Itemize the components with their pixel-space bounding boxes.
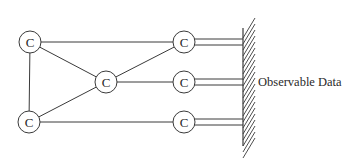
wall-hatch bbox=[243, 78, 255, 98]
node-c1: C bbox=[19, 31, 41, 53]
wall-hatch bbox=[243, 84, 255, 104]
observation-links bbox=[194, 39, 243, 125]
edge-c1-c3 bbox=[29, 42, 30, 122]
wall-hatch bbox=[243, 48, 255, 68]
network-diagram: CCCCCC Observable Data bbox=[0, 0, 352, 158]
wall-hatch bbox=[243, 138, 255, 158]
node-c3: C bbox=[18, 111, 40, 133]
node-label: C bbox=[180, 75, 189, 90]
wall-hatch bbox=[243, 36, 255, 56]
wall-hatch bbox=[243, 90, 255, 110]
wall-hatch bbox=[243, 54, 255, 74]
wall-hatch bbox=[243, 24, 255, 44]
wall-hatch bbox=[243, 66, 255, 86]
observable-wall bbox=[243, 18, 255, 158]
wall-hatch bbox=[243, 18, 255, 38]
wall-hatch bbox=[243, 42, 255, 62]
wall-hatch bbox=[243, 126, 255, 146]
edge-c3-c2 bbox=[29, 82, 106, 122]
node-label: C bbox=[102, 75, 111, 90]
edge-c1-c2 bbox=[30, 42, 106, 82]
wall-hatch bbox=[243, 108, 255, 128]
node-c5: C bbox=[173, 71, 195, 93]
node-c2: C bbox=[95, 71, 117, 93]
node-label: C bbox=[26, 35, 35, 50]
node-label: C bbox=[180, 115, 189, 130]
node-label: C bbox=[180, 35, 189, 50]
wall-hatch bbox=[243, 96, 255, 116]
wall-hatch bbox=[243, 72, 255, 92]
wall-hatch bbox=[243, 30, 255, 50]
wall-hatch bbox=[243, 102, 255, 122]
node-label: C bbox=[25, 115, 34, 130]
wall-hatch bbox=[243, 120, 255, 140]
edge-c2-c4 bbox=[106, 42, 184, 82]
wall-hatch bbox=[243, 132, 255, 152]
wall-hatch bbox=[243, 114, 255, 134]
node-c6: C bbox=[173, 111, 195, 133]
observable-data-label: Observable Data bbox=[258, 75, 342, 89]
node-c4: C bbox=[173, 31, 195, 53]
wall-hatch bbox=[243, 60, 255, 80]
